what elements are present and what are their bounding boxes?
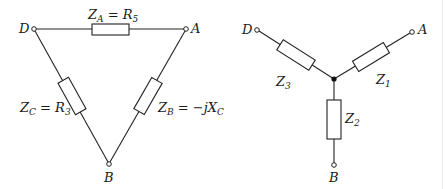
resistor-z1 bbox=[352, 43, 389, 72]
star-label-b: B bbox=[328, 170, 339, 185]
star-terminal-b bbox=[332, 163, 337, 168]
delta-terminal-a bbox=[184, 27, 189, 32]
label-z3: Z3 bbox=[275, 74, 291, 91]
star-center-node bbox=[331, 76, 336, 81]
delta-network: D A B ZA = R5 ZC = R3 ZB = −jXC bbox=[18, 7, 224, 185]
label-zc: ZC = R3 bbox=[19, 100, 71, 117]
star-label-a: A bbox=[417, 22, 427, 37]
circuit-diagram: D A B ZA = R5 ZC = R3 ZB = −jXC D A B Z3… bbox=[0, 0, 445, 189]
label-z1: Z1 bbox=[375, 72, 391, 89]
delta-terminal-b bbox=[107, 162, 112, 167]
resistor-za bbox=[92, 24, 129, 35]
label-z2: Z2 bbox=[344, 111, 360, 128]
resistor-z3 bbox=[277, 40, 315, 71]
star-terminal-d bbox=[255, 28, 260, 33]
delta-terminal-d bbox=[32, 27, 37, 32]
resistor-z2 bbox=[327, 100, 341, 139]
star-terminal-a bbox=[410, 30, 415, 35]
label-zb: ZB = −jXC bbox=[157, 100, 224, 117]
delta-label-d: D bbox=[18, 21, 30, 36]
label-za: ZA = R5 bbox=[87, 7, 139, 24]
star-network: D A B Z3 Z1 Z2 bbox=[241, 22, 427, 185]
star-label-d: D bbox=[241, 22, 253, 37]
delta-label-a: A bbox=[190, 21, 200, 36]
delta-label-b: B bbox=[103, 170, 114, 185]
